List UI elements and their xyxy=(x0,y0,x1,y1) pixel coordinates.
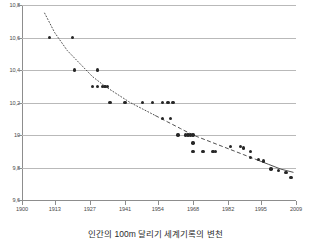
x-tick-label: 1995 xyxy=(249,206,273,213)
data-point xyxy=(289,176,292,179)
gridline xyxy=(22,38,296,39)
chart-caption: 인간의 100m 달리기 세계기록의 변천 xyxy=(0,229,311,240)
x-tick-mark xyxy=(55,201,56,205)
x-tick-mark xyxy=(158,201,159,205)
x-tick-label: 1954 xyxy=(146,206,170,213)
data-point xyxy=(191,133,194,136)
data-point xyxy=(191,141,194,144)
data-point xyxy=(191,150,194,153)
gridline xyxy=(22,200,296,201)
data-point xyxy=(176,133,179,136)
chart-container: 9,69,81010,210,410,610,8 190019131927194… xyxy=(0,0,311,240)
data-point xyxy=(108,101,111,104)
data-point xyxy=(48,36,51,39)
data-point xyxy=(249,156,252,159)
data-point xyxy=(269,167,272,170)
data-point xyxy=(161,117,164,120)
x-tick-mark xyxy=(90,201,91,205)
data-point xyxy=(151,101,154,104)
x-tick-mark xyxy=(22,201,23,205)
data-point xyxy=(71,36,74,39)
data-point xyxy=(96,85,99,88)
data-point xyxy=(284,171,287,174)
data-point xyxy=(214,150,217,153)
x-tick-label: 1927 xyxy=(78,206,102,213)
gridline xyxy=(22,5,296,6)
data-point xyxy=(161,101,164,104)
data-point xyxy=(257,158,260,161)
x-tick-mark xyxy=(261,201,262,205)
x-tick-mark xyxy=(125,201,126,205)
x-tick-label: 1913 xyxy=(43,206,67,213)
data-point xyxy=(262,159,265,162)
x-tick-label: 1982 xyxy=(216,206,240,213)
gridline xyxy=(22,135,296,136)
data-point xyxy=(73,68,76,71)
data-point xyxy=(169,117,172,120)
data-point xyxy=(201,150,204,153)
data-point xyxy=(123,101,126,104)
data-point xyxy=(277,169,280,172)
x-tick-label: 2009 xyxy=(284,206,308,213)
data-point xyxy=(171,101,174,104)
gridline xyxy=(22,103,296,104)
gridline xyxy=(22,70,296,71)
data-point xyxy=(91,85,94,88)
x-tick-mark xyxy=(296,201,297,205)
x-tick-label: 1941 xyxy=(113,206,137,213)
data-point xyxy=(242,146,245,149)
data-point xyxy=(229,145,232,148)
data-point xyxy=(106,85,109,88)
data-point xyxy=(249,150,252,153)
x-tick-label: 1968 xyxy=(181,206,205,213)
data-point xyxy=(141,101,144,104)
x-tick-label: 1900 xyxy=(10,206,34,213)
x-tick-mark xyxy=(193,201,194,205)
y-axis-labels: 9,69,81010,210,410,610,8 xyxy=(0,0,20,206)
data-point xyxy=(96,68,99,71)
plot-area xyxy=(22,5,296,200)
x-tick-mark xyxy=(228,201,229,205)
data-point xyxy=(166,101,169,104)
gridline xyxy=(22,168,296,169)
